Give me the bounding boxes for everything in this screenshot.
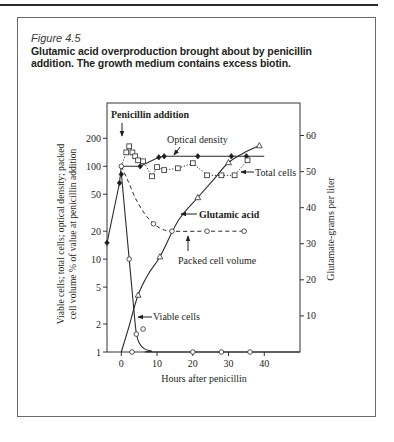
y-tick-label: 20 xyxy=(91,226,101,237)
optical-density-diamond-marker xyxy=(157,155,161,160)
glutamic-acid-triangle-marker xyxy=(256,143,262,148)
total-cells-square-marker xyxy=(141,159,146,164)
chart: 125102050100200102030405060010203040 Via… xyxy=(0,0,394,442)
y-tick-label: 1 xyxy=(96,347,101,358)
y-tick-label: 200 xyxy=(86,133,101,144)
y-tick-label: 10 xyxy=(91,254,101,265)
annotation-viable-cells: Viable cells xyxy=(153,311,200,322)
viable-cells-circle-marker xyxy=(191,350,196,355)
total-cells-square-marker xyxy=(162,168,167,173)
optical-density-diamond-marker xyxy=(117,180,121,185)
y2-tick-label: 60 xyxy=(306,130,316,141)
y-tick-label: 5 xyxy=(96,282,101,293)
total-cells-square-marker xyxy=(155,165,160,170)
annotation-total-cells: Total cells xyxy=(255,167,296,178)
y-axis-title-line-1: Viable cells; total cells; optical densi… xyxy=(55,144,66,325)
packed-cell-volume-circle-marker xyxy=(151,222,156,227)
packed-cell-volume-circle-marker xyxy=(170,229,175,234)
packed-cell-volume-circle-marker xyxy=(242,229,247,234)
optical-density-diamond-marker xyxy=(162,154,166,159)
total-cells-square-marker xyxy=(245,158,250,163)
optical-density-diamond-marker xyxy=(105,240,109,245)
annotation-glutamic-acid: Glutamic acid xyxy=(199,209,260,220)
y2-tick-label: 50 xyxy=(306,166,316,177)
total-cells-square-marker xyxy=(124,150,129,155)
x-tick-label: 0 xyxy=(119,358,124,369)
optical-density-diamond-marker xyxy=(138,164,142,169)
viable-cells-circle-marker xyxy=(248,350,253,355)
total-cells-square-marker xyxy=(136,158,141,163)
x-tick-label: 30 xyxy=(224,358,234,369)
arrow-icon xyxy=(174,147,180,155)
total-cells-square-marker xyxy=(190,161,195,166)
optical-density-diamond-marker xyxy=(229,154,233,159)
viable-cells-circle-marker xyxy=(219,350,224,355)
viable-cells-circle-marker xyxy=(130,350,135,355)
total-cells-square-marker xyxy=(219,173,224,178)
x-tick-label: 10 xyxy=(152,358,162,369)
total-cells-square-marker xyxy=(127,144,132,149)
total-cells-square-marker xyxy=(205,173,210,178)
viable-cells-circle-marker xyxy=(134,332,139,337)
glutamic-acid-triangle-marker xyxy=(135,292,141,297)
packed-cell-volume-line xyxy=(121,166,244,231)
y-tick-label: 50 xyxy=(91,189,101,200)
viable-cells-circle-marker xyxy=(141,327,146,332)
x-axis-title: Hours after penicillin xyxy=(161,373,247,384)
glutamic-acid-triangle-marker xyxy=(157,254,163,259)
y-tick-label: 2 xyxy=(96,319,101,330)
y2-tick-label: 10 xyxy=(306,310,316,321)
annotation-packed-cell-volume: Packed cell volume xyxy=(178,255,257,266)
y-axis-title-line-2: cell volume % of value at penicillin add… xyxy=(67,148,78,319)
y2-tick-label: 40 xyxy=(306,202,316,213)
total-cells-square-marker xyxy=(232,173,237,178)
y2-tick-label: 20 xyxy=(306,274,316,285)
annotation-optical-density: Optical density xyxy=(167,134,228,145)
y-tick-label: 100 xyxy=(86,161,101,172)
x-tick-label: 20 xyxy=(188,358,198,369)
optical-density-diamond-marker xyxy=(196,154,200,159)
optical-density-line xyxy=(107,156,264,243)
viable-cells-circle-marker xyxy=(127,257,132,262)
annotation-penicillin-addition: Penicillin addition xyxy=(111,109,190,120)
y2-axis-title: Glutamate-grams per liter xyxy=(325,177,336,281)
packed-cell-volume-circle-marker xyxy=(205,229,210,234)
y2-tick-label: 30 xyxy=(306,238,316,249)
total-cells-square-marker xyxy=(150,174,155,179)
packed-cell-volume-circle-marker xyxy=(119,164,124,169)
total-cells-square-marker xyxy=(175,166,180,171)
x-tick-label: 40 xyxy=(259,358,269,369)
